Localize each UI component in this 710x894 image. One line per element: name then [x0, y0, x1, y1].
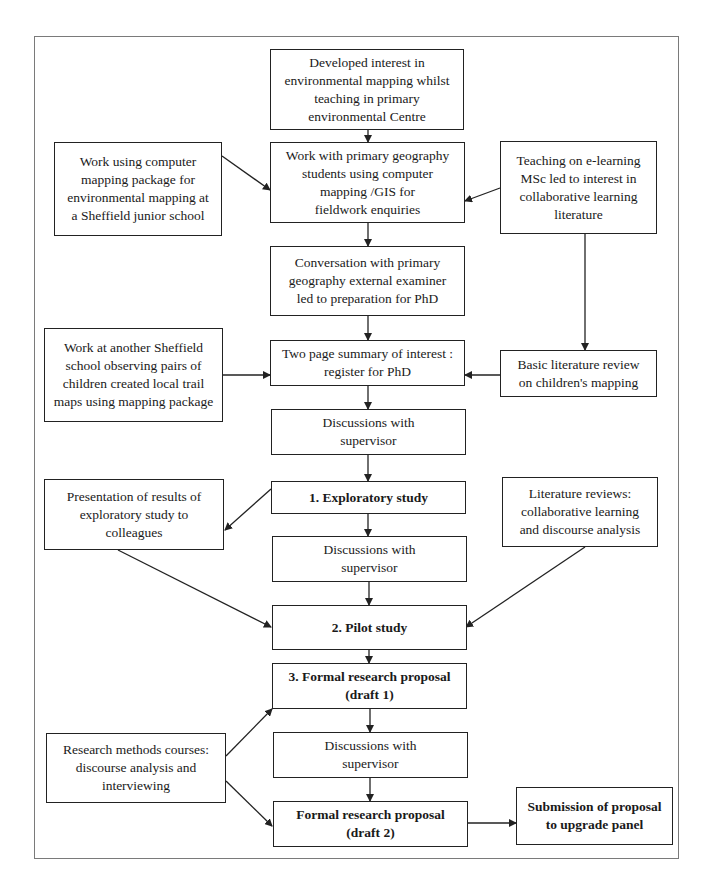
node-label: Basic literature review on children's ma… — [517, 356, 639, 392]
node-work-with-geography-students: Work with primary geography students usi… — [270, 142, 465, 223]
node-another-sheffield-school: Work at another Sheffield school observi… — [44, 328, 223, 422]
node-exploratory-study: 1. Exploratory study — [271, 481, 466, 514]
node-label: Submission of proposal to upgrade panel — [527, 798, 661, 834]
node-label: Work with primary geography students usi… — [286, 147, 450, 219]
node-teaching-elearning-msc: Teaching on e-learning MSc led to intere… — [500, 141, 657, 234]
node-label: Teaching on e-learning MSc led to intere… — [516, 152, 640, 224]
node-label: Discussions with supervisor — [323, 414, 415, 450]
node-literature-reviews: Literature reviews: collaborative learni… — [502, 477, 658, 547]
node-pilot-study: 2. Pilot study — [272, 605, 467, 650]
node-discussions-supervisor-1: Discussions with supervisor — [271, 409, 466, 455]
node-discussions-supervisor-2: Discussions with supervisor — [272, 536, 467, 582]
node-formal-proposal-draft-1: 3. Formal research proposal (draft 1) — [272, 663, 467, 709]
node-label: Presentation of results of exploratory s… — [67, 488, 202, 542]
node-discussions-supervisor-3: Discussions with supervisor — [273, 732, 468, 778]
node-label: 3. Formal research proposal (draft 1) — [289, 668, 451, 704]
node-presentation-results: Presentation of results of exploratory s… — [44, 479, 224, 550]
node-label: Literature reviews: collaborative learni… — [520, 485, 641, 539]
node-basic-literature-review: Basic literature review on children's ma… — [500, 350, 657, 397]
node-label: Two page summary of interest : register … — [282, 345, 453, 381]
node-submission-upgrade-panel: Submission of proposal to upgrade panel — [516, 787, 673, 845]
node-formal-proposal-draft-2: Formal research proposal (draft 2) — [273, 801, 468, 847]
node-label: Research methods courses: discourse anal… — [63, 741, 209, 795]
node-research-methods-courses: Research methods courses: discourse anal… — [46, 733, 226, 803]
node-developed-interest: Developed interest in environmental mapp… — [270, 49, 464, 130]
node-label: Formal research proposal (draft 2) — [296, 806, 445, 842]
node-label: Developed interest in environmental mapp… — [285, 54, 450, 126]
node-label: Conversation with primary geography exte… — [289, 254, 446, 308]
node-label: Discussions with supervisor — [325, 737, 417, 773]
node-sheffield-junior-school: Work using computer mapping package for … — [54, 142, 222, 236]
node-two-page-summary: Two page summary of interest : register … — [270, 340, 465, 386]
node-label: 1. Exploratory study — [309, 489, 428, 507]
node-conversation-external-examiner: Conversation with primary geography exte… — [270, 246, 465, 316]
node-label: Discussions with supervisor — [324, 541, 416, 577]
node-label: Work using computer mapping package for … — [67, 153, 209, 225]
node-label: Work at another Sheffield school observi… — [54, 339, 213, 411]
node-label: 2. Pilot study — [332, 619, 407, 637]
